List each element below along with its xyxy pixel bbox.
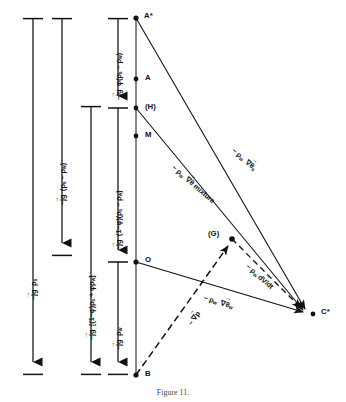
vector-arrow-glyph: −jg [114,240,123,250]
point-label-g: (G) [208,229,219,238]
label-jg-phi-rho-diff: −jg φ(ρs − ρw) [114,53,123,100]
label-jg-one-minus-phi-rho-diff: −jg (1−φ)(ρs − ρw) [114,190,123,250]
label-jg-rho-w: −jg ρw [114,328,123,350]
point-label-a: A [145,73,151,82]
label-text: [(1−φ)ρs + φρw] [87,275,96,327]
figure-canvas: −jg ρs −jg (ρs − ρw) −jg [(1−φ)ρs + φρw]… [0,0,346,402]
label-text: φ(ρs − ρw) [114,53,123,88]
figure-caption: Figure 11. [0,388,346,402]
label-text: (ρs − ρw) [58,163,67,193]
vector-rho-w-grad-theta-s [136,18,305,309]
point-label-b: B [145,369,151,378]
label-text: ρw [114,328,123,338]
point-label-c-star: C* [321,307,330,316]
point-label-a-star: A* [144,11,153,20]
scale-bar-jg-rho-s-minus-rho-w [52,18,72,255]
vector-arrow-glyph: −jg [58,195,67,205]
point-label-o: O [145,255,151,264]
label-jg-mixture-bracket: −jg [(1−φ)ρs + φρw] [87,275,96,340]
label-text: (1−φ)(ρs − ρw) [114,190,123,237]
scale-bar-jg-rho-w [108,262,128,374]
vector-arrow-glyph: −jg [114,340,123,350]
point-label-h: (H) [145,102,156,111]
vector-rho-w-grad-theta-mixture [136,108,303,310]
vector-arrow-glyph: −jg [114,90,123,100]
vector-arrow-glyph: −jg [87,330,96,340]
vector-arrow-glyph: −jg [29,290,38,300]
point-label-m: M [145,130,152,139]
point-dots [133,15,315,377]
label-jg-rho-s-minus-rho-w: −jg (ρs − ρw) [58,163,67,205]
scale-bar-jg-rho-s [23,18,43,374]
label-jg-rho-s: −jg ρs [29,279,38,300]
vector-minus-grad-p [136,246,228,375]
